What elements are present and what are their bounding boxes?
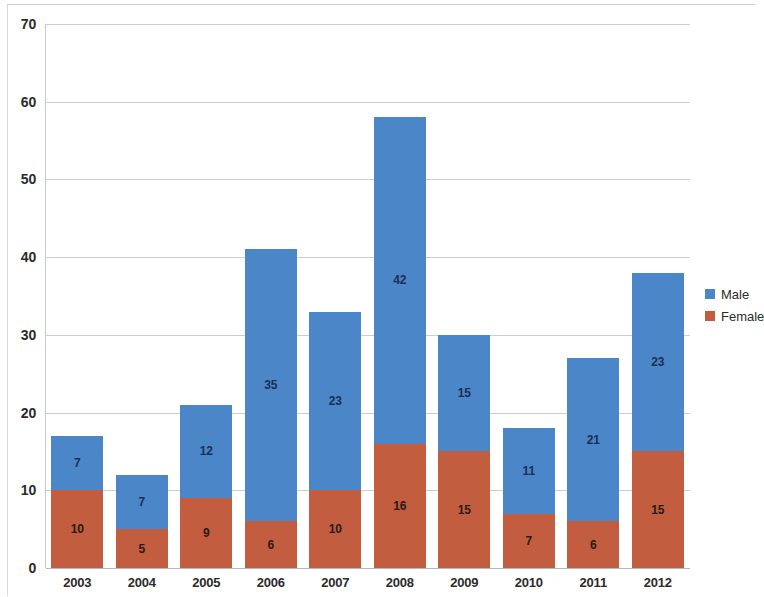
- bar-column[interactable]: 107: [51, 24, 103, 568]
- bar-segment-male[interactable]: 42: [374, 117, 426, 443]
- bar-column[interactable]: 1515: [438, 24, 490, 568]
- bar-value-label-female: 6: [590, 539, 596, 551]
- bar-segment-female[interactable]: 7: [503, 514, 555, 568]
- chart-legend: MaleFemale: [705, 283, 764, 327]
- bar-column[interactable]: 635: [245, 24, 297, 568]
- bar-segment-female[interactable]: 15: [632, 451, 684, 568]
- bar-value-label-female: 15: [651, 504, 664, 516]
- bar-segment-female[interactable]: 6: [567, 521, 619, 568]
- x-tick-label-2003: 2003: [42, 576, 112, 589]
- bar-column[interactable]: 621: [567, 24, 619, 568]
- bar-segment-female[interactable]: 10: [309, 490, 361, 568]
- x-tick-label-2011: 2011: [558, 576, 628, 589]
- x-tick-label-2008: 2008: [365, 576, 435, 589]
- bar-segment-female[interactable]: 10: [51, 490, 103, 568]
- bar-value-label-female: 10: [71, 523, 84, 535]
- bar-column[interactable]: 57: [116, 24, 168, 568]
- bar-column[interactable]: 1642: [374, 24, 426, 568]
- bar-value-label-male: 21: [587, 434, 600, 446]
- bar-value-label-male: 7: [74, 457, 80, 469]
- bar-value-label-male: 23: [651, 356, 664, 368]
- y-tick-label-50: 50: [2, 172, 36, 186]
- bar-value-label-male: 42: [393, 274, 406, 286]
- legend-item-male[interactable]: Male: [705, 283, 764, 305]
- bar-segment-male[interactable]: 15: [438, 335, 490, 452]
- bar-value-label-female: 15: [458, 504, 471, 516]
- y-tick-label-40: 40: [2, 250, 36, 264]
- bar-value-label-female: 9: [203, 527, 209, 539]
- bar-segment-male[interactable]: 11: [503, 428, 555, 513]
- bars-layer: 107579126351023164215157116211523: [45, 24, 690, 568]
- bar-value-label-female: 5: [139, 543, 145, 555]
- y-tick-label-20: 20: [2, 406, 36, 420]
- y-tick-label-60: 60: [2, 95, 36, 109]
- bar-segment-female[interactable]: 6: [245, 521, 297, 568]
- legend-label: Female: [721, 310, 764, 323]
- bar-segment-male[interactable]: 21: [567, 358, 619, 521]
- x-tick-label-2012: 2012: [623, 576, 693, 589]
- bar-value-label-female: 10: [329, 523, 342, 535]
- x-tick-label-2005: 2005: [171, 576, 241, 589]
- bar-segment-male[interactable]: 12: [180, 405, 232, 498]
- bar-segment-male[interactable]: 7: [51, 436, 103, 490]
- bar-column[interactable]: 1023: [309, 24, 361, 568]
- x-tick-label-2010: 2010: [494, 576, 564, 589]
- bar-segment-female[interactable]: 15: [438, 451, 490, 568]
- y-tick-label-10: 10: [2, 483, 36, 497]
- bar-segment-male[interactable]: 23: [632, 273, 684, 452]
- legend-label: Male: [721, 288, 749, 301]
- x-tick-label-2007: 2007: [300, 576, 370, 589]
- bar-column[interactable]: 1523: [632, 24, 684, 568]
- bar-value-label-female: 16: [393, 500, 406, 512]
- bar-column[interactable]: 711: [503, 24, 555, 568]
- bar-value-label-female: 6: [268, 539, 274, 551]
- bar-value-label-male: 15: [458, 387, 471, 399]
- bar-segment-female[interactable]: 16: [374, 444, 426, 568]
- x-tick-label-2006: 2006: [236, 576, 306, 589]
- x-tick-label-2004: 2004: [107, 576, 177, 589]
- bar-segment-male[interactable]: 23: [309, 312, 361, 491]
- bar-value-label-male: 35: [264, 379, 277, 391]
- y-tick-label-70: 70: [2, 17, 36, 31]
- bar-value-label-female: 7: [526, 535, 532, 547]
- y-tick-label-30: 30: [2, 328, 36, 342]
- bar-segment-male[interactable]: 7: [116, 475, 168, 529]
- x-tick-label-2009: 2009: [429, 576, 499, 589]
- bar-value-label-male: 7: [139, 496, 145, 508]
- bar-column[interactable]: 912: [180, 24, 232, 568]
- y-tick-label-0: 0: [2, 561, 36, 575]
- bar-segment-female[interactable]: 5: [116, 529, 168, 568]
- bar-value-label-male: 12: [200, 445, 213, 457]
- gridline-0: [46, 568, 690, 569]
- bar-segment-female[interactable]: 9: [180, 498, 232, 568]
- bar-segment-male[interactable]: 35: [245, 249, 297, 521]
- bar-value-label-male: 23: [329, 395, 342, 407]
- male-swatch: [705, 289, 715, 299]
- female-swatch: [705, 311, 715, 321]
- bar-value-label-male: 11: [523, 465, 535, 477]
- legend-item-female[interactable]: Female: [705, 305, 764, 327]
